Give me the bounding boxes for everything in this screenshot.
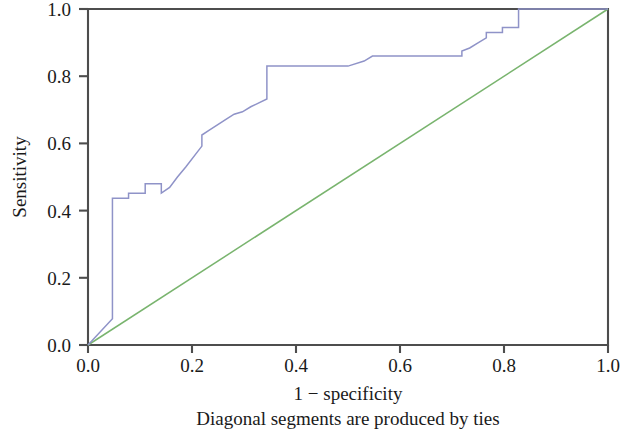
y-axis-title: Sensitivity xyxy=(9,136,30,218)
chart-caption: Diagonal segments are produced by ties xyxy=(196,408,499,429)
x-axis-tick-label: 0.0 xyxy=(76,355,100,376)
y-axis-tick-label: 0.8 xyxy=(47,66,71,87)
y-axis-tick-label: 0.6 xyxy=(47,133,71,154)
x-axis-title: 1 − specificity xyxy=(294,383,403,404)
y-axis-tick-label: 0.4 xyxy=(47,201,71,222)
roc-chart-svg: 0.00.20.40.60.81.0 0.00.20.40.60.81.0 1 … xyxy=(0,0,622,435)
x-axis-tick-label: 1.0 xyxy=(596,355,620,376)
y-axis-tick-label: 0.0 xyxy=(47,335,71,356)
x-axis-tick-label: 0.8 xyxy=(492,355,516,376)
roc-chart-figure: 0.00.20.40.60.81.0 0.00.20.40.60.81.0 1 … xyxy=(0,0,622,435)
x-axis-tick-label: 0.4 xyxy=(284,355,308,376)
x-axis-tick-label: 0.2 xyxy=(180,355,204,376)
x-axis-tick-label: 0.6 xyxy=(388,355,412,376)
y-axis-tick-label: 0.2 xyxy=(47,268,71,289)
y-axis-tick-label: 1.0 xyxy=(47,0,71,20)
